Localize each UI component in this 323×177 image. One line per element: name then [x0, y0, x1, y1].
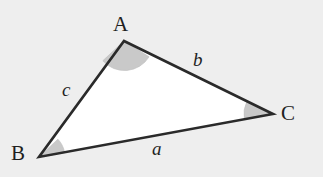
vertex-label-a: A [113, 14, 128, 35]
triangle-diagram [0, 0, 323, 177]
side-label-a: a [152, 139, 162, 158]
side-label-b: b [193, 50, 203, 69]
side-label-c: c [62, 80, 70, 99]
triangle-figure: A B C a b c [0, 0, 323, 177]
vertex-label-b: B [11, 143, 25, 164]
vertex-label-c: C [281, 103, 295, 124]
